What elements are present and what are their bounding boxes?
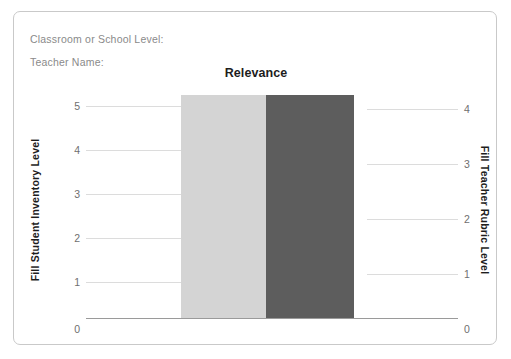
right-axis-title: Fill Teacher Rubric Level bbox=[479, 110, 491, 310]
tick-left-4: 4 bbox=[58, 145, 80, 156]
gridline-right-4 bbox=[367, 109, 458, 110]
chart-card: Classroom or School Level: Teacher Name:… bbox=[13, 11, 497, 345]
gridline-right-1 bbox=[367, 274, 458, 275]
tick-left-2: 2 bbox=[58, 233, 80, 244]
left-axis-title: Fill Student Inventory Level bbox=[29, 110, 41, 310]
tick-right-0: 0 bbox=[464, 324, 486, 335]
plot-area bbox=[86, 95, 458, 319]
bar-student-inventory bbox=[181, 95, 266, 318]
tick-left-0: 0 bbox=[58, 324, 80, 335]
bar-teacher-rubric bbox=[266, 95, 354, 318]
gridline-right-2 bbox=[367, 219, 458, 220]
tick-left-5: 5 bbox=[58, 101, 80, 112]
tick-left-3: 3 bbox=[58, 189, 80, 200]
gridline-right-3 bbox=[367, 164, 458, 165]
axis-baseline bbox=[86, 318, 458, 319]
left-axis-ticks: 5 4 3 2 1 0 bbox=[54, 95, 80, 319]
tick-left-1: 1 bbox=[58, 277, 80, 288]
chart-title: Relevance bbox=[14, 66, 498, 80]
classroom-or-school-level-label: Classroom or School Level: bbox=[30, 33, 164, 45]
